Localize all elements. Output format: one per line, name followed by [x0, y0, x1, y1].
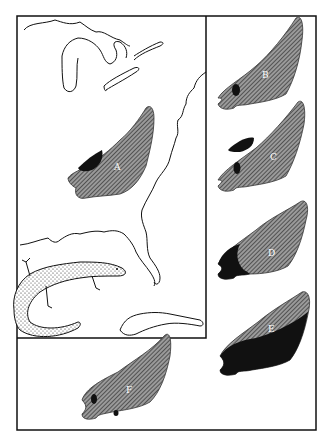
range-panel-c: C: [218, 101, 305, 191]
range-panel-d: D: [218, 201, 308, 279]
range-map-figure: A B C D E F: [0, 0, 328, 434]
panel-label-d: D: [268, 248, 275, 258]
panel-label-c: C: [270, 152, 277, 162]
east-coastline: [141, 72, 206, 284]
range-panel-e: E: [220, 292, 310, 375]
range-panel-b: B: [218, 17, 303, 109]
cuba-outline: [120, 313, 203, 336]
panel-label-f: F: [126, 385, 132, 395]
range-panel-f: F: [82, 334, 171, 419]
panel-label-e: E: [268, 324, 275, 334]
range-label-a: A: [113, 162, 121, 172]
panel-label-b: B: [262, 70, 269, 80]
salamander-illustration: [14, 258, 126, 337]
great-lakes: [24, 20, 163, 92]
range-map-a: A: [68, 106, 154, 198]
